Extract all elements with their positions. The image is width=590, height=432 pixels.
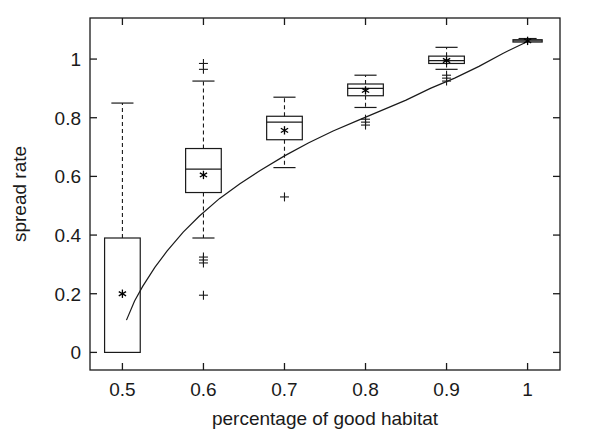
box-plot-group xyxy=(105,103,141,352)
y-axis-ticks xyxy=(90,59,560,352)
figure-container: 0.50.60.70.80.91 00.20.40.60.81 percenta… xyxy=(0,0,590,432)
y-axis-tick-labels: 00.20.40.60.81 xyxy=(55,49,82,363)
x-tick-label: 1 xyxy=(522,379,533,400)
x-axis-title: percentage of good habitat xyxy=(212,408,439,429)
plot-frame xyxy=(90,18,560,370)
y-tick-label: 0.2 xyxy=(55,284,81,305)
x-tick-label: 0.7 xyxy=(271,379,297,400)
y-axis-title: spread rate xyxy=(9,146,30,242)
x-axis-ticks xyxy=(122,18,527,370)
mean-star-marker xyxy=(119,290,126,298)
x-axis-tick-labels: 0.50.60.70.80.91 xyxy=(109,379,533,400)
mean-star-marker xyxy=(200,171,207,179)
x-tick-label: 0.5 xyxy=(109,379,135,400)
y-tick-label: 0.4 xyxy=(55,225,82,246)
y-tick-label: 0 xyxy=(70,342,81,363)
y-tick-label: 0.8 xyxy=(55,108,81,129)
box-plot-group xyxy=(186,59,222,300)
x-tick-label: 0.8 xyxy=(352,379,378,400)
mean-markers-layer xyxy=(119,37,531,298)
mean-star-marker xyxy=(281,126,288,134)
box-plot-chart: 0.50.60.70.80.91 00.20.40.60.81 percenta… xyxy=(0,0,590,432)
y-tick-label: 1 xyxy=(70,49,81,70)
box-plot-group xyxy=(348,75,384,129)
fit-curve-line xyxy=(126,41,527,320)
box-plot-group xyxy=(429,47,465,85)
box-iqr xyxy=(186,149,222,193)
x-tick-label: 0.9 xyxy=(433,379,459,400)
y-tick-label: 0.6 xyxy=(55,166,81,187)
mean-star-marker xyxy=(362,86,369,94)
x-tick-label: 0.6 xyxy=(190,379,216,400)
box-plots-layer xyxy=(105,39,543,353)
